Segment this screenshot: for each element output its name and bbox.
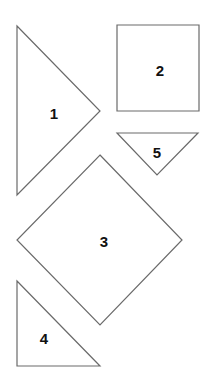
- shape-5: 5: [117, 133, 198, 175]
- shape-label-1: 1: [50, 105, 58, 122]
- shape-label-4: 4: [40, 330, 49, 347]
- shape-label-2: 2: [156, 62, 164, 79]
- shape-label-3: 3: [100, 233, 108, 250]
- shape-3: 3: [17, 155, 182, 325]
- tangram-diagram: 1 2 5 3 4: [0, 0, 210, 376]
- shape-label-5: 5: [153, 144, 161, 161]
- shape-2: 2: [117, 25, 199, 111]
